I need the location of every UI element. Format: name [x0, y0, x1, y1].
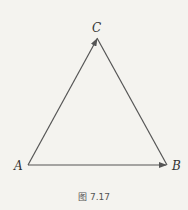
segment-cb [97, 38, 167, 165]
vertex-label-c: C [92, 21, 101, 35]
vector-ac [28, 39, 97, 165]
vertex-label-b: B [172, 159, 181, 173]
figure-caption: 图 7.17 [0, 190, 188, 203]
vertex-label-a: A [14, 159, 23, 173]
figure: C A B 图 7.17 [0, 0, 188, 210]
